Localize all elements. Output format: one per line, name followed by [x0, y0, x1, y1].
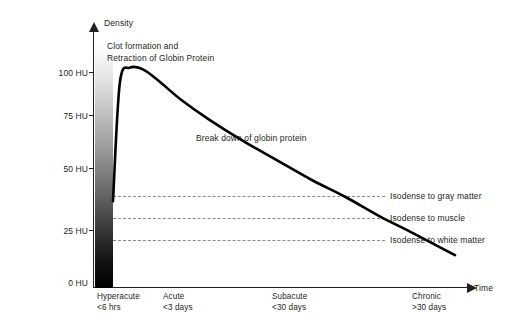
- density-curve: [0, 0, 531, 331]
- density-curve-path: [113, 67, 455, 255]
- chart-container: Density Time 100 HU 75 HU 50 HU 25 HU 0 …: [0, 0, 531, 331]
